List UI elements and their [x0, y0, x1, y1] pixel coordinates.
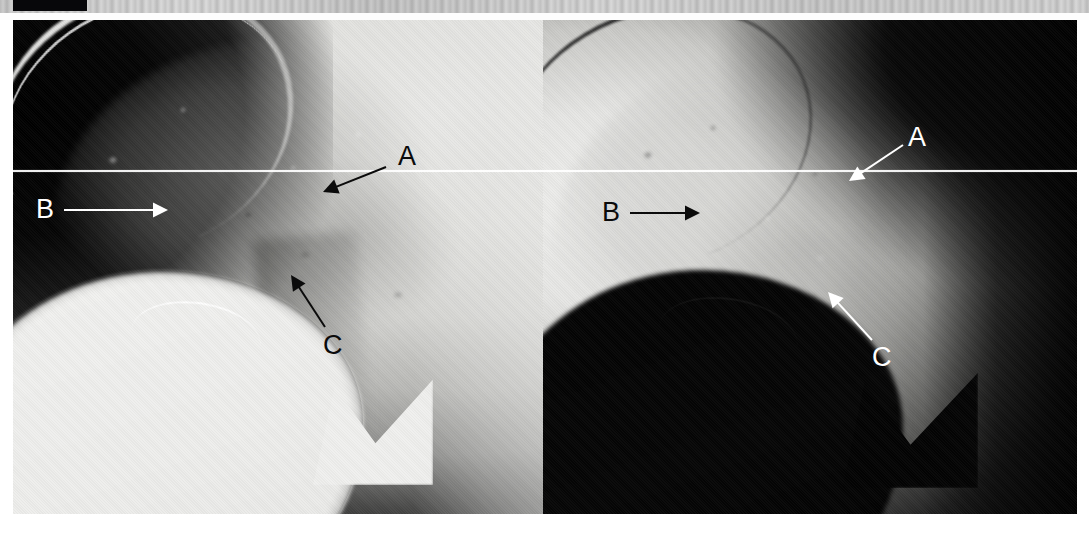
strip-gap — [0, 13, 1089, 20]
right-page-margin — [1077, 20, 1089, 533]
radiograph-plate: A B C A B C — [13, 20, 1077, 514]
scan-edge-strip — [0, 0, 1089, 13]
radiograph-figure: A B C A B C — [0, 0, 1089, 533]
black-marker-block — [13, 0, 87, 11]
right-film — [543, 20, 1077, 514]
right-lateral-dark-field — [923, 20, 1077, 514]
bottom-page-margin — [0, 514, 1089, 533]
left-lateral-fade — [413, 20, 543, 514]
horizontal-reference-line — [13, 170, 1077, 172]
left-film — [13, 20, 543, 514]
left-page-margin — [0, 20, 13, 533]
left-radiograph-panel — [13, 20, 543, 514]
right-radiograph-panel — [543, 20, 1077, 514]
